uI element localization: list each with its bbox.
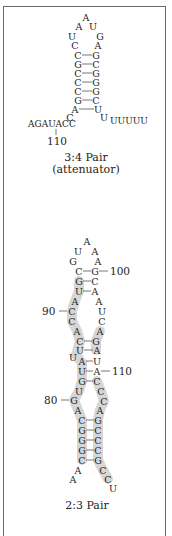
position-label-80: 80 (44, 394, 57, 406)
position-label-110: 110 (112, 365, 132, 377)
hairpin-3-4-pair: AAUCUGACGGCCGCGCGGCAUCUAGAUACCUUUUU1103:… (27, 12, 148, 176)
nucleotide: U (100, 112, 108, 123)
nucleotide-loop-top: A (83, 236, 91, 247)
nucleotide: U (109, 483, 117, 494)
caption-attenuator: (attenuator) (52, 163, 120, 176)
position-label-110: 110 (47, 135, 67, 147)
nucleotide: A (93, 345, 101, 356)
caption-2-3-pair: 2:3 Pair (65, 499, 109, 512)
nucleotide: U (76, 345, 84, 356)
position-label-90: 90 (42, 305, 55, 317)
hairpin-2-3-pair: AUGCGUACCACUUAUGUGACGGGCAAAAGCAAUCAGAUAC… (42, 236, 132, 512)
right-tail-sequence: UUUUU (110, 116, 148, 126)
position-label-100: 100 (110, 265, 130, 277)
left-tail-sequence: AGAUACC (27, 119, 76, 129)
nucleotide: A (69, 474, 77, 485)
nucleotide: U (69, 352, 77, 363)
